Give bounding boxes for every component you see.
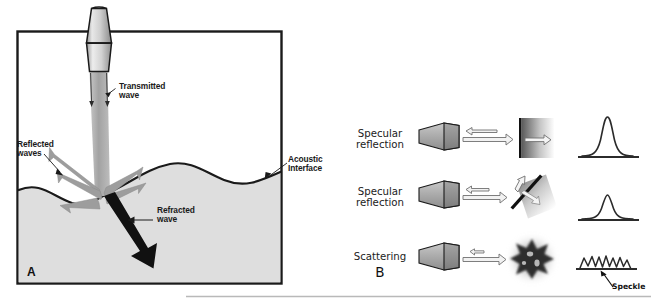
- panel-a-graphics: [18, 7, 288, 283]
- label-row-3-scattering: Scattering: [340, 251, 420, 262]
- panel-label-b: B: [340, 265, 420, 280]
- label-speckle: Speckle: [612, 283, 645, 292]
- label-row-2-specular-reflection: Specular reflection: [343, 186, 417, 209]
- transducer-nose-row-3: [444, 243, 459, 270]
- panel-b-row-1: [419, 117, 639, 158]
- figure-graphics: [0, 0, 651, 304]
- transducer-body-lower: [87, 43, 112, 72]
- label-acoustic-interface: Acoustic Interface: [288, 155, 323, 174]
- transducer-nose-row-1: [444, 123, 459, 150]
- label-transmitted-wave: Transmitted wave: [119, 82, 165, 101]
- echo-arrow-row-2: [466, 186, 489, 194]
- echo-arrow-row-3: [470, 249, 484, 255]
- label-row-1-specular-reflection: Specular reflection: [343, 128, 417, 151]
- transmitted-arrow-row-3: [463, 254, 506, 265]
- trace-curve-row-3: [580, 256, 631, 268]
- ultrasound-physics-figure: Transmitted wave Reflected waves Acousti…: [0, 0, 651, 304]
- panel-b-row-2: [419, 175, 639, 221]
- trace-curve-row-2: [582, 195, 633, 219]
- trace-curve-row-1: [582, 117, 633, 156]
- reflector-line-row-1: [519, 118, 522, 158]
- transmitted-arrow-row-2: [463, 192, 507, 203]
- label-reflected-waves: Reflected waves: [17, 140, 54, 159]
- panel-b-row-3: [419, 235, 637, 287]
- panel-label-a: A: [27, 266, 36, 279]
- echo-arrow-row-1: [466, 128, 497, 136]
- transducer-nose-row-2: [444, 181, 459, 208]
- leader-speckle-arrowhead: [601, 270, 607, 276]
- label-refracted-wave: Refracted wave: [157, 206, 195, 225]
- transmitted-arrow-row-1: [463, 134, 513, 145]
- panel-b-graphics: [419, 117, 639, 287]
- transducer-body-upper: [87, 9, 112, 44]
